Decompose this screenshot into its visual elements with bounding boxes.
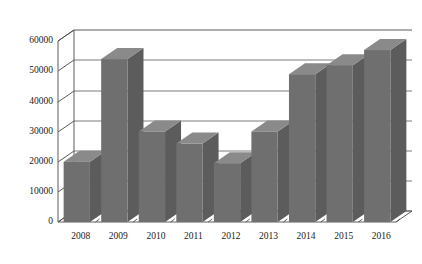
y-tick-labels: 60000 50000 40000 30000 20000 10000 0: [29, 35, 53, 226]
bar[interactable]: [289, 63, 331, 222]
y-tick-label: 40000: [29, 96, 53, 106]
bar-front-face: [64, 162, 90, 222]
x-tick-label: 2008: [71, 231, 90, 241]
x-tick-label: 2014: [297, 231, 316, 241]
x-tick-label: 2010: [146, 231, 165, 241]
y-tick-label: 30000: [29, 126, 53, 136]
bar-front-face: [214, 163, 240, 222]
bar[interactable]: [101, 48, 143, 222]
bar[interactable]: [327, 54, 369, 222]
y-tick-label: 10000: [29, 186, 53, 196]
bar[interactable]: [364, 39, 406, 222]
bar-front-face: [176, 144, 202, 222]
x-tick-label: 2009: [109, 231, 128, 241]
bar[interactable]: [251, 121, 293, 223]
bar-chart: 60000 50000 40000 30000 20000 10000 0 20…: [0, 0, 422, 264]
bar[interactable]: [64, 151, 106, 222]
bars-layer: [64, 39, 407, 222]
y-tick-label: 0: [48, 216, 53, 226]
x-tick-label: 2015: [334, 231, 353, 241]
x-tick-label: 2016: [372, 231, 391, 241]
x-tick-label: 2012: [222, 231, 241, 241]
bar-front-face: [139, 132, 165, 223]
bar[interactable]: [214, 152, 256, 222]
bar-front-face: [364, 50, 390, 222]
y-tick-label: 60000: [29, 35, 53, 45]
bar-front-face: [289, 74, 315, 222]
bar-front-face: [327, 65, 353, 222]
bar-front-face: [251, 132, 277, 223]
y-tick-label: 50000: [29, 65, 53, 75]
x-tick-labels: 200820092010201120122013201420152016: [71, 231, 391, 241]
bar-front-face: [101, 59, 127, 222]
y-tick-label: 20000: [29, 156, 53, 166]
x-tick-label: 2013: [259, 231, 278, 241]
bar[interactable]: [139, 121, 181, 223]
bar[interactable]: [176, 133, 218, 222]
chart-canvas: 60000 50000 40000 30000 20000 10000 0 20…: [0, 0, 422, 264]
x-tick-label: 2011: [184, 231, 203, 241]
bar-side-face: [390, 39, 406, 222]
